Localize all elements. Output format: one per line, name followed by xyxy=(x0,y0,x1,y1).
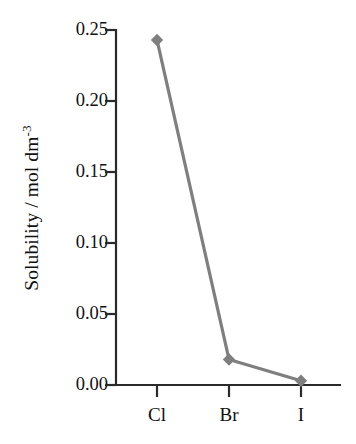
chart-figure: Solubility / mol dm-3 0.25 0.20 0.15 0.1… xyxy=(0,0,356,444)
series-markers xyxy=(151,34,307,387)
x-axis-ticks xyxy=(157,385,301,397)
plot-area xyxy=(0,0,356,444)
series-line xyxy=(157,40,301,381)
y-axis-ticks xyxy=(105,30,116,385)
data-point-br xyxy=(223,353,235,365)
data-point-cl xyxy=(151,34,163,46)
data-series-solubility xyxy=(151,34,307,387)
